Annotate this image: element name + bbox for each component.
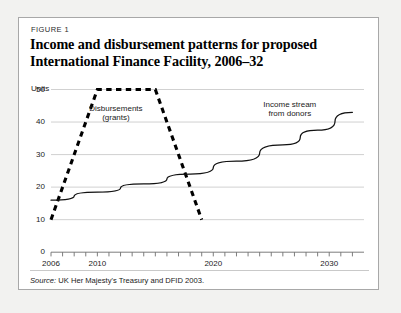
annotation-disbursements: Disbursements (grants) [78, 104, 154, 123]
y-tick-label-10: 10 [25, 216, 45, 224]
annotation-disbursements-line-1: Disbursements [78, 104, 154, 114]
annotation-income-line-1: Income stream [250, 100, 330, 110]
x-axis-tick-marks [51, 252, 352, 256]
source-prefix: Source: [30, 276, 56, 285]
figure-card: FIGURE 1 Income and disbursement pattern… [18, 17, 379, 290]
chart-plot-area: 01020304050 2006201020202030 Disbursemen… [19, 18, 380, 291]
annotation-income-line-2: from donors [250, 109, 330, 119]
source-note: Source: UK Her Majesty's Treasury and DF… [30, 276, 204, 285]
chart-svg [19, 18, 380, 291]
annotation-income: Income stream from donors [250, 100, 330, 119]
y-tick-label-20: 20 [25, 183, 45, 191]
x-tick-label-2010: 2010 [77, 260, 117, 268]
annotation-disbursements-line-2: (grants) [78, 113, 154, 123]
x-tick-label-2006: 2006 [31, 260, 71, 268]
y-tick-label-0: 0 [25, 248, 45, 256]
source-divider [30, 270, 369, 271]
x-tick-label-2020: 2020 [193, 260, 233, 268]
source-text: UK Her Majesty's Treasury and DFID 2003. [56, 276, 204, 285]
y-tick-label-30: 30 [25, 151, 45, 159]
y-tick-label-50: 50 [25, 86, 45, 94]
x-tick-label-2030: 2030 [309, 260, 349, 268]
y-tick-label-40: 40 [25, 118, 45, 126]
